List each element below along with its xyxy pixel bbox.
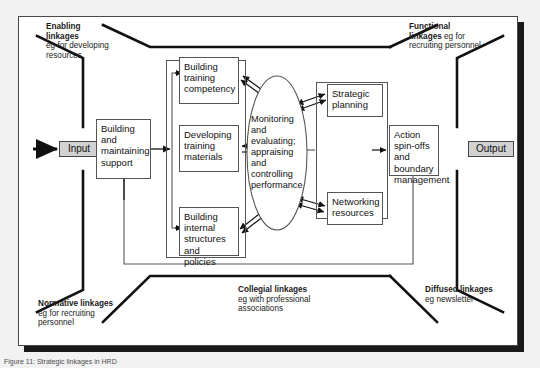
linkage-title-line2: linkages xyxy=(409,32,442,41)
figure-caption: Figure 11: Strategic linkages in HRD xyxy=(4,358,117,365)
linkage-label-normative: Normative linkages eg for recruiting per… xyxy=(38,299,134,328)
input-badge: Input xyxy=(59,141,99,157)
card-shadow-bottom xyxy=(24,346,524,352)
linkage-detail-line2: resources xyxy=(46,51,82,60)
linkage-title-line1: Functional xyxy=(409,22,450,31)
output-label: Output xyxy=(476,143,506,154)
node-building-maintaining-support[interactable]: Building and maintaining support xyxy=(96,119,151,179)
monitoring-text: Monitoring and evaluating; appraising an… xyxy=(251,114,303,190)
linkage-detail-line2: personnel xyxy=(38,318,74,327)
node-label: Building and maintaining support xyxy=(101,123,150,168)
node-action-spinoffs-boundary-management[interactable]: Action spin-offs and boundary management xyxy=(389,125,439,176)
linkage-detail-inline: eg for xyxy=(442,32,465,41)
figure-canvas: Monitoring and evaluating; appraising an… xyxy=(0,0,540,368)
linkage-detail-line2: associations xyxy=(238,304,283,313)
linkage-detail-line1: eg newsletter xyxy=(425,295,474,304)
node-label: Developing training materials xyxy=(184,129,232,162)
figure-caption-text: Figure 11: Strategic linkages in HRD xyxy=(4,358,117,365)
node-label: Strategic planning xyxy=(332,88,370,110)
node-label: Networking resources xyxy=(332,196,380,218)
linkage-label-enabling: Enabling linkages eg for developing reso… xyxy=(46,22,118,60)
linkage-detail-line2: recruiting personnel xyxy=(409,41,481,50)
node-building-training-competency[interactable]: Building training competency xyxy=(179,57,239,104)
linkage-title-line1: Enabling xyxy=(46,22,81,31)
output-badge: Output xyxy=(468,141,514,157)
node-developing-training-materials[interactable]: Developing training materials xyxy=(179,125,239,172)
linkage-title: Normative linkages xyxy=(38,299,113,308)
node-label: Building training competency xyxy=(184,61,235,94)
linkage-title: Diffused linkages xyxy=(425,285,493,294)
linkage-title-line2: linkages xyxy=(46,32,79,41)
node-strategic-planning[interactable]: Strategic planning xyxy=(327,84,383,117)
node-networking-resources[interactable]: Networking resources xyxy=(327,192,383,225)
linkage-detail-line1: eg for developing xyxy=(46,41,109,50)
linkage-title: Collegial linkages xyxy=(238,285,307,294)
linkage-detail-line1: eg for recruiting xyxy=(38,309,95,318)
linkage-detail-line1: eg with professional xyxy=(238,295,310,304)
input-label: Input xyxy=(68,143,90,154)
node-building-internal-structures[interactable]: Building internal structures and policie… xyxy=(179,207,239,256)
linkage-label-diffused: Diffused linkages eg newsletter xyxy=(425,285,521,304)
linkage-label-collegial: Collegial linkages eg with professional … xyxy=(238,285,338,314)
monitoring-ellipse-label: Monitoring and evaluating; appraising an… xyxy=(251,114,305,191)
linkage-label-functional: Functional linkages eg for recruiting pe… xyxy=(409,22,499,51)
